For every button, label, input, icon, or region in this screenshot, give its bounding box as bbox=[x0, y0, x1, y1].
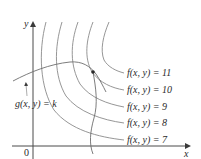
lagrange-diagram: y x 0 g(x, y) = k f(x, y) = 11 f(x, y) =… bbox=[0, 0, 201, 159]
level-label-10: f(x, y) = 10 bbox=[127, 84, 172, 96]
level-curve-7 bbox=[41, 22, 124, 140]
tangent-point bbox=[91, 70, 95, 74]
level-curve-labels: f(x, y) = 11 f(x, y) = 10 f(x, y) = 9 f(… bbox=[127, 67, 172, 146]
level-curves bbox=[41, 22, 124, 140]
level-label-7: f(x, y) = 7 bbox=[127, 134, 168, 146]
level-curve-9 bbox=[72, 22, 124, 107]
level-curve-11 bbox=[102, 22, 124, 73]
level-label-8: f(x, y) = 8 bbox=[127, 117, 167, 129]
constraint-curve bbox=[13, 62, 106, 92]
origin-label: 0 bbox=[24, 147, 29, 158]
level-label-11: f(x, y) = 11 bbox=[127, 67, 171, 79]
y-axis-label: y bbox=[23, 18, 29, 29]
gradient-line bbox=[90, 72, 96, 154]
level-label-9: f(x, y) = 9 bbox=[127, 101, 167, 113]
level-curve-8 bbox=[56, 22, 124, 123]
constraint-label: g(x, y) = k bbox=[15, 98, 57, 110]
x-axis-label: x bbox=[183, 148, 189, 159]
constraint-leader bbox=[26, 84, 27, 96]
